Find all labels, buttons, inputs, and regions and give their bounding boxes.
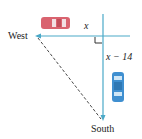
red-car-icon bbox=[41, 17, 70, 29]
x-minus-14-label: x − 14 bbox=[106, 52, 132, 62]
right-angle-icon bbox=[95, 37, 102, 43]
west-label: West bbox=[8, 31, 28, 41]
blue-car-icon bbox=[112, 72, 124, 102]
dashed-hypotenuse bbox=[38, 38, 101, 119]
west-arrowhead-icon bbox=[35, 34, 41, 39]
south-label: South bbox=[91, 124, 114, 134]
south-arrowhead-icon bbox=[101, 115, 106, 121]
diagram-canvas bbox=[0, 0, 142, 139]
x-label: x bbox=[84, 21, 88, 31]
